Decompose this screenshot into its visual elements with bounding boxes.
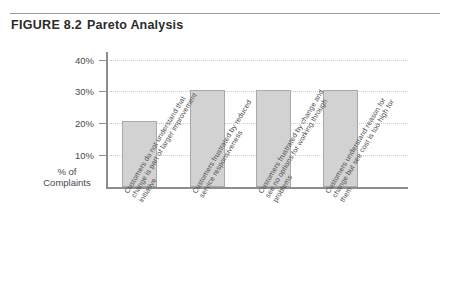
y-axis-line [106,52,108,188]
gridline-40 [110,60,408,61]
ytick-label-30: 30% [34,87,94,97]
ytick-label-40: 40% [34,56,94,66]
pareto-chart: 40% 30% 20% 10% % of Complaints Customer… [0,0,462,293]
ytick-label-20: 20% [34,119,94,129]
ytick-label-10: 10% [34,151,94,161]
y-axis-title: % of Complaints [34,166,100,188]
